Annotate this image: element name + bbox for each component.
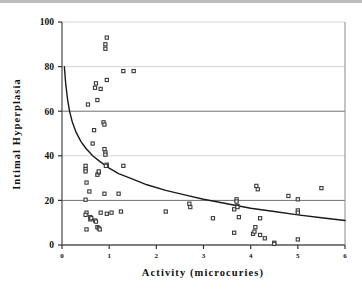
data-point [253, 230, 256, 233]
x-tick-label-2: 2 [155, 252, 159, 260]
data-point [103, 148, 106, 151]
data-point [211, 217, 214, 220]
data-point [296, 198, 299, 201]
data-point [97, 170, 100, 173]
data-point [132, 69, 135, 72]
data-point [119, 210, 122, 213]
data-point [320, 187, 323, 190]
figure-container: 020406080100 0123456 Activity (microcuri… [0, 0, 362, 290]
y-tick-label-60: 60 [45, 107, 55, 117]
data-point [236, 205, 239, 208]
data-point [296, 211, 299, 214]
data-point [92, 129, 95, 132]
data-point [84, 213, 87, 216]
x-tick-label-group: 0123456 [60, 252, 347, 260]
y-tick-label-100: 100 [40, 17, 55, 27]
data-point [86, 103, 89, 106]
data-point [117, 192, 120, 195]
x-tick-label-4: 4 [249, 252, 253, 260]
x-tick-label-3: 3 [202, 252, 206, 260]
data-point [85, 228, 88, 231]
data-point [99, 87, 102, 90]
data-point [91, 142, 94, 145]
data-point [256, 188, 259, 191]
x-tick-label-1: 1 [107, 252, 111, 260]
x-tick-label-5: 5 [296, 252, 300, 260]
data-point [164, 210, 167, 213]
data-point [96, 98, 99, 101]
y-tick-label-40: 40 [45, 151, 55, 161]
x-tick-label-6: 6 [343, 252, 347, 260]
data-point [122, 164, 125, 167]
data-point [235, 200, 238, 203]
data-point [94, 220, 97, 223]
data-point [103, 123, 106, 126]
data-point [105, 212, 108, 215]
data-point [263, 237, 266, 240]
data-point [273, 242, 276, 245]
data-point [90, 217, 93, 220]
data-point [254, 226, 257, 229]
data-point [105, 78, 108, 81]
data-point [104, 47, 107, 50]
plot-area-background [62, 22, 345, 245]
data-point [104, 153, 107, 156]
y-tick-label-80: 80 [45, 62, 55, 72]
data-point [88, 190, 91, 193]
data-point [84, 170, 87, 173]
data-point [110, 211, 113, 214]
data-point [104, 164, 107, 167]
data-point [296, 238, 299, 241]
data-point [122, 69, 125, 72]
data-point [94, 82, 97, 85]
data-point [103, 192, 106, 195]
data-point [105, 36, 108, 39]
scatter-plot: 020406080100 0123456 Activity (microcuri… [0, 0, 362, 290]
x-tick-label-0: 0 [60, 252, 64, 260]
data-point [255, 184, 258, 187]
data-point [93, 86, 96, 89]
data-point [233, 208, 236, 211]
data-point [84, 164, 87, 167]
data-point [188, 202, 191, 205]
data-point [237, 216, 240, 219]
data-point [259, 233, 262, 236]
y-tick-label-20: 20 [45, 196, 55, 206]
data-point [287, 194, 290, 197]
data-point [84, 198, 87, 201]
data-point [104, 43, 107, 46]
y-tick-label-group: 020406080100 [40, 17, 55, 250]
x-axis-title: Activity (microcuries) [142, 267, 264, 279]
data-point [189, 205, 192, 208]
data-point [259, 217, 262, 220]
y-axis-title: Intimal Hyperplasia [11, 78, 22, 190]
y-tick-label-0: 0 [49, 240, 54, 250]
data-point [98, 228, 101, 231]
data-point [85, 181, 88, 184]
data-point [99, 211, 102, 214]
data-point [233, 231, 236, 234]
